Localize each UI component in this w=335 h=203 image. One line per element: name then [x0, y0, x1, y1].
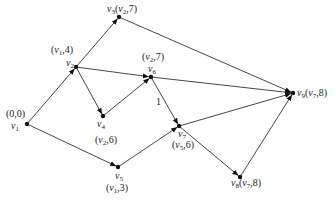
node-label-v2: (v1,4)	[51, 44, 73, 57]
edge-v6-v7	[151, 77, 178, 124]
labels-layer: 1v1(0,0)v2(v1,4)v3(v2,7)v4(v2,6)v5(v1,3)…	[6, 3, 327, 195]
node-v5	[116, 165, 120, 169]
edge-weight-label: 1	[156, 96, 161, 107]
node-label-v7: (v5,6)	[172, 139, 194, 152]
node-v3	[117, 15, 121, 19]
edge-v1-v2	[27, 69, 74, 124]
node-label-v4: (v2,6)	[95, 134, 117, 147]
node-label-v6: (v2,7)	[142, 51, 164, 64]
edge-v4-v6	[103, 79, 149, 116]
node-name-v6: v6	[148, 63, 156, 76]
node-name-label-v8: v8(v7,8)	[231, 177, 261, 190]
node-name-label-v9: v9(v7,8)	[297, 87, 327, 100]
node-name-v4: v4	[97, 118, 105, 131]
edge-v2-v6	[76, 67, 149, 77]
edge-v5-v7	[118, 127, 177, 167]
graph-diagram: 1v1(0,0)v2(v1,4)v3(v2,7)v4(v2,6)v5(v1,3)…	[0, 0, 335, 203]
edge-v2-v4	[76, 67, 102, 114]
node-label-v5: (v1,3)	[106, 182, 128, 195]
node-label-v1: (0,0)	[6, 108, 25, 120]
node-v9	[291, 91, 295, 95]
node-name-v1: v1	[11, 120, 19, 133]
node-name-label-v3: v3(v2,7)	[107, 3, 137, 16]
node-v4	[101, 114, 105, 118]
edge-v6-v9	[151, 77, 291, 93]
node-name-v2: v2	[66, 57, 74, 70]
node-v2	[74, 65, 78, 69]
edge-v7-v8	[179, 126, 238, 175]
node-v1	[25, 122, 29, 126]
edge-v2-v3	[76, 19, 117, 67]
edge-v7-v9	[179, 94, 291, 126]
edge-v8-v9	[240, 95, 292, 177]
